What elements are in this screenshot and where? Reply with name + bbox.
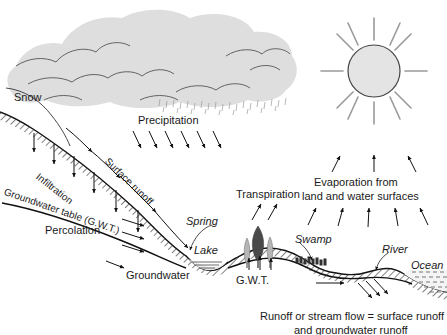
precipitation-group: Precipitation [133, 114, 221, 148]
tree-cypress-right [267, 237, 273, 268]
sun-group [321, 18, 427, 124]
lake-group: Lake [194, 244, 218, 256]
label-transpiration: Transpiration [236, 188, 300, 200]
label-percolation: Percolation [45, 224, 100, 236]
label-evaporation-line2: land and water surfaces [302, 190, 419, 202]
caption-line-2: and groundwater runoff [294, 324, 408, 335]
label-spring: Spring [186, 215, 219, 227]
label-groundwater: Groundwater [126, 269, 190, 281]
caption-group: Runoff or stream flow = surface runoff a… [260, 310, 445, 335]
percolation-group: Percolation [45, 219, 144, 252]
label-lake: Lake [194, 244, 218, 256]
evaporation-upper-arrows [332, 155, 416, 172]
vegetation-group: Transpiration G.W.T. [236, 188, 300, 286]
hydrologic-cycle-diagram: Snow Precipitation I [0, 0, 447, 335]
caption-line-1: Runoff or stream flow = surface runoff [260, 310, 445, 322]
label-surface-runoff: Surface runoff [103, 155, 156, 207]
label-ocean: Ocean [411, 259, 443, 271]
tree-conifer-center [252, 226, 263, 268]
swamp-group: Swamp [295, 233, 332, 265]
sun-disc [348, 45, 400, 97]
label-snow: Snow [14, 91, 42, 103]
percolation-arrows [122, 219, 144, 252]
cloud-shape [8, 10, 297, 108]
label-gwt-right: G.W.T. [236, 274, 269, 286]
label-swamp: Swamp [295, 233, 332, 245]
evaporation-lower-arrows [308, 208, 428, 227]
label-evaporation-line1: Evaporation from [314, 176, 398, 188]
river-leader-line [376, 253, 388, 270]
label-river: River [382, 243, 409, 255]
transpiration-arrows [252, 204, 277, 220]
river-outlet-arrows [358, 279, 388, 298]
precipitation-arrows [133, 131, 221, 148]
label-precipitation: Precipitation [138, 114, 199, 126]
cloud-group [8, 10, 297, 115]
ocean-group: Ocean [411, 259, 443, 271]
evaporation-group: Evaporation from land and water surfaces [302, 155, 428, 227]
diagram-canvas: Snow Precipitation I [0, 0, 447, 335]
